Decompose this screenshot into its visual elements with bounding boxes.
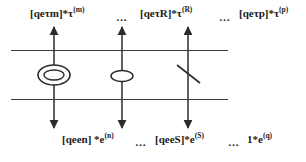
top-label-flux-p: [qeτp]*τ(p) — [239, 7, 288, 19]
top-label-flux-p-base: [qeτp]*τ — [239, 7, 279, 19]
arrow-p-q-head-up — [184, 26, 193, 35]
top-ellipsis-2-text: … — [219, 11, 231, 23]
bottom-label-flux-S-base: [qeeS]*e — [155, 133, 195, 145]
top-label-flux-R: [qeτR]*τ(R) — [140, 7, 192, 19]
double-ellipse-inner — [44, 70, 64, 80]
bottom-ellipsis-1-text: … — [135, 136, 147, 148]
bottom-ellipsis-2: … — [228, 136, 240, 148]
bottom-label-flux-q-sup: (q) — [263, 131, 272, 140]
arrow-p-q-head-down — [184, 120, 193, 129]
membrane-transport-diagram: [qeτm]*τ(m) … [qeτR]*τ(R) … [qeτp]*τ(p) … — [0, 0, 306, 162]
single-ellipse-transporter — [111, 71, 133, 82]
bottom-ellipsis-2-text: … — [228, 136, 240, 148]
bottom-label-flux-q-base: 1*e — [247, 133, 263, 145]
top-label-flux-m-base: [qeτm]*τ — [30, 7, 73, 19]
arrow-p-q-group — [177, 26, 200, 129]
bottom-label-flux-S: [qeeS]*e(S) — [155, 133, 204, 145]
top-label-flux-m-sup: (m) — [73, 5, 84, 14]
arrow-R-S-head-down — [118, 120, 127, 129]
arrow-R-S-head-up — [118, 26, 127, 35]
bottom-label-flux-n: [qeen] *e(n) — [62, 133, 114, 145]
bottom-ellipsis-1: … — [135, 136, 147, 148]
bottom-label-flux-n-base: [qeen] *e — [62, 133, 104, 145]
top-ellipsis-1: … — [116, 11, 128, 23]
arrow-m-n-head-up — [50, 26, 59, 35]
top-label-flux-m: [qeτm]*τ(m) — [30, 7, 84, 19]
bottom-label-flux-n-sup: (n) — [104, 131, 113, 140]
arrow-m-n-group — [38, 26, 70, 129]
top-ellipsis-1-text: … — [116, 11, 128, 23]
top-label-flux-p-sup: (p) — [279, 5, 288, 14]
bottom-label-flux-q: 1*e(q) — [247, 133, 272, 145]
top-label-flux-R-base: [qeτR]*τ — [140, 7, 182, 19]
top-label-flux-R-sup: (R) — [182, 5, 192, 14]
top-ellipsis-2: … — [219, 11, 231, 23]
arrow-m-n-head-down — [50, 120, 59, 129]
arrow-R-S-group — [111, 26, 133, 129]
bottom-label-flux-S-sup: (S) — [195, 131, 204, 140]
